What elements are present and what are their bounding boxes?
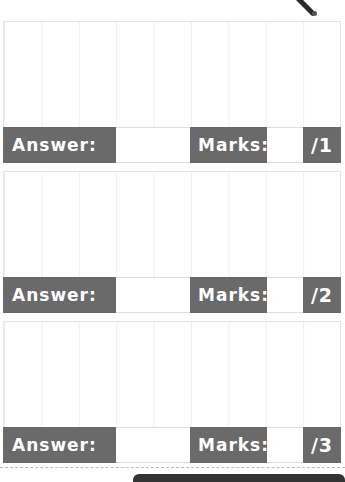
marks-total: /3 xyxy=(303,427,341,463)
answer-bar: Answer: Marks: /1 xyxy=(3,127,341,163)
marks-field[interactable] xyxy=(267,277,303,313)
question-box-1: Answer: Marks: /1 xyxy=(3,21,341,163)
answer-label: Answer: xyxy=(3,277,116,313)
marks-label: Marks: xyxy=(190,127,267,163)
answer-bar: Answer: Marks: /3 xyxy=(3,427,341,463)
marks-label: Marks: xyxy=(190,277,267,313)
bottom-tab xyxy=(133,474,345,482)
answer-label: Answer: xyxy=(3,427,116,463)
answer-field[interactable] xyxy=(116,127,190,163)
marks-field[interactable] xyxy=(267,427,303,463)
marks-total: /1 xyxy=(303,127,341,163)
marks-label: Marks: xyxy=(190,427,267,463)
cut-line-divider xyxy=(0,467,345,468)
question-box-3: Answer: Marks: /3 xyxy=(3,321,341,463)
marks-field[interactable] xyxy=(267,127,303,163)
answer-bar: Answer: Marks: /2 xyxy=(3,277,341,313)
marks-total: /2 xyxy=(303,277,341,313)
answer-field[interactable] xyxy=(116,427,190,463)
question-box-2: Answer: Marks: /2 xyxy=(3,171,341,313)
answer-label: Answer: xyxy=(3,127,116,163)
answer-field[interactable] xyxy=(116,277,190,313)
